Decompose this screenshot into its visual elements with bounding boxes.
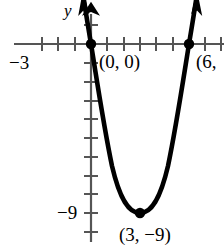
point-label-origin: (0, 0) (99, 52, 140, 71)
point-label-vertex: (3, −9) (119, 225, 171, 244)
point-label-right-intercept: (6, (196, 52, 217, 71)
y-axis-label: y (64, 2, 72, 19)
y-axis-tick-label-minus-9: −9 (57, 203, 77, 222)
graph-figure: y −3 −9 (0, 0) (6, (3, −9) (0, 0, 224, 247)
parabola-plot (0, 0, 224, 247)
x-axis-tick-label-minus-3: −3 (9, 53, 29, 72)
point-vertex (135, 208, 145, 218)
parabola-curve (84, 0, 197, 213)
point-right-intercept (184, 39, 194, 49)
point-origin (86, 39, 96, 49)
